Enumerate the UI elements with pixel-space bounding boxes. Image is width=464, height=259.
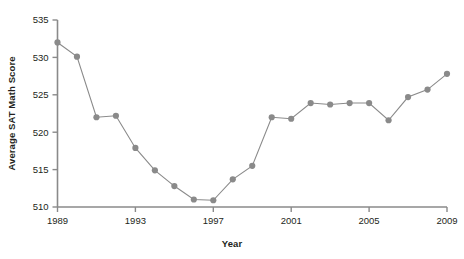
data-point-marker (191, 196, 197, 202)
x-tick-label: 2009 (436, 215, 457, 226)
data-point-marker (152, 167, 158, 173)
y-axis-title: Average SAT Math Score (6, 54, 17, 174)
data-point-marker (230, 176, 236, 182)
data-point-marker (405, 94, 411, 100)
data-point-marker (269, 114, 275, 120)
data-point-marker (54, 39, 60, 45)
x-tick-label: 2001 (281, 215, 302, 226)
data-point-marker (74, 54, 80, 60)
data-point-marker (424, 86, 430, 92)
sat-math-score-line-chart: 510515520525530535 198919931997200120052… (0, 0, 464, 259)
data-point-marker (385, 117, 391, 123)
x-tick-label: 1997 (203, 215, 224, 226)
y-tick-label: 525 (33, 89, 49, 100)
y-axis-ticks: 510515520525530535 (33, 14, 58, 212)
x-axis-title: Year (0, 238, 464, 249)
data-point-marker (171, 183, 177, 189)
data-point-marker (366, 100, 372, 106)
x-tick-label: 1989 (47, 215, 68, 226)
data-point-marker (327, 101, 333, 107)
x-tick-label: 1993 (125, 215, 146, 226)
data-point-marker (308, 100, 314, 106)
data-point-marker (210, 197, 216, 203)
y-tick-label: 535 (33, 14, 49, 25)
data-point-marker (249, 163, 255, 169)
x-tick-label: 2005 (359, 215, 380, 226)
data-point-marker (132, 145, 138, 151)
y-tick-label: 515 (33, 164, 49, 175)
data-point-marker (113, 113, 119, 119)
data-point-marker (288, 116, 294, 122)
y-tick-label: 530 (33, 52, 49, 63)
data-point-marker (444, 71, 450, 77)
data-point-markers (54, 39, 450, 203)
data-point-marker (347, 100, 353, 106)
y-tick-label: 510 (33, 201, 49, 212)
y-tick-label: 520 (33, 127, 49, 138)
chart-plot-area: 510515520525530535 198919931997200120052… (0, 0, 464, 259)
data-point-marker (93, 114, 99, 120)
x-axis-ticks: 198919931997200120052009 (47, 207, 458, 226)
